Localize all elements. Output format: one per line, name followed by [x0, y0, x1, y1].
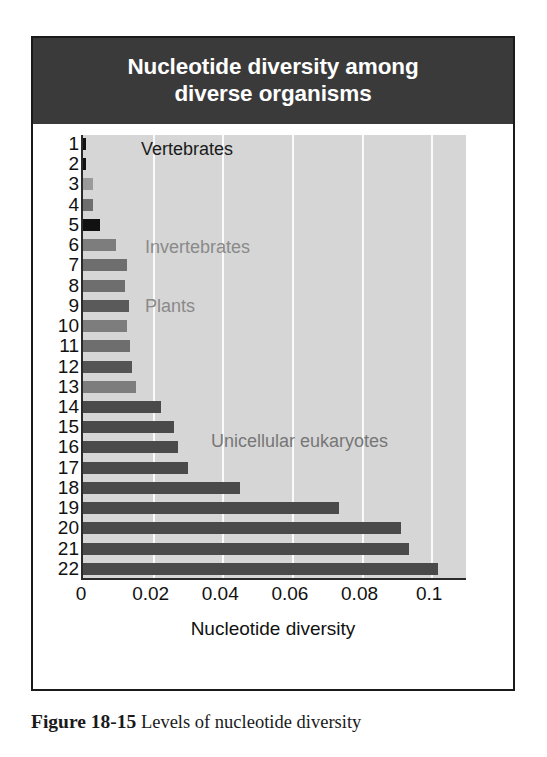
x-axis-tick-label: 0.04 — [202, 584, 239, 603]
chart-title-banner: Nucleotide diversity among diverse organ… — [33, 38, 513, 124]
x-axis-ticks: 00.020.040.060.080.1 — [81, 584, 466, 610]
y-axis-tick-label: 9 — [68, 296, 79, 315]
bar — [83, 158, 86, 170]
plot-region: 12345678910111213141516171819202122 Vert… — [33, 124, 513, 689]
y-axis-tick-label: 4 — [68, 195, 79, 214]
y-axis-tick-label: 16 — [58, 437, 79, 456]
bar — [83, 441, 178, 453]
bar — [83, 239, 116, 251]
group-annotation: Invertebrates — [145, 238, 250, 256]
plot-area: VertebratesInvertebratesPlantsUnicellula… — [81, 135, 466, 580]
y-axis-tick-label: 6 — [68, 235, 79, 254]
bar — [83, 361, 132, 373]
x-axis-tick-label: 0.1 — [416, 584, 442, 603]
figure-number: Figure 18-15 — [31, 711, 136, 732]
gridline — [362, 135, 364, 578]
figure-caption: Figure 18-15 Levels of nucleotide divers… — [31, 710, 531, 734]
y-axis-tick-label: 7 — [68, 255, 79, 274]
bar — [83, 300, 129, 312]
y-axis-tick-label: 20 — [58, 518, 79, 537]
y-axis-tick-label: 15 — [58, 417, 79, 436]
y-axis-tick-label: 18 — [58, 478, 79, 497]
bar — [83, 219, 100, 231]
y-axis-tick-label: 3 — [68, 174, 79, 193]
figure-caption-text: Levels of nucleotide diversity — [136, 712, 361, 732]
x-axis-tick-label: 0.02 — [132, 584, 169, 603]
bar — [83, 401, 161, 413]
y-axis-tick-label: 5 — [68, 215, 79, 234]
bar — [83, 462, 188, 474]
group-annotation: Vertebrates — [141, 140, 233, 158]
bar — [83, 320, 127, 332]
bar — [83, 563, 438, 575]
x-axis-tick-label: 0 — [76, 584, 87, 603]
y-axis-tick-label: 8 — [68, 276, 79, 295]
bar — [83, 502, 339, 514]
bar — [83, 178, 93, 190]
bar — [83, 543, 409, 555]
bar — [83, 522, 401, 534]
bar — [83, 138, 86, 150]
y-axis-tick-label: 19 — [58, 498, 79, 517]
y-axis-tick-label: 22 — [58, 559, 79, 578]
bar — [83, 340, 130, 352]
bar — [83, 381, 136, 393]
y-axis-tick-label: 1 — [68, 134, 79, 153]
bar — [83, 280, 125, 292]
y-axis-tick-label: 17 — [58, 458, 79, 477]
gridline — [431, 135, 433, 578]
bar — [83, 259, 127, 271]
y-axis-tick-label: 14 — [58, 397, 79, 416]
bar — [83, 482, 240, 494]
group-annotation: Unicellular eukaryotes — [211, 432, 388, 450]
group-annotation: Plants — [145, 297, 195, 315]
bar — [83, 199, 93, 211]
y-axis-tick-label: 13 — [58, 377, 79, 396]
x-axis-tick-label: 0.06 — [271, 584, 308, 603]
y-axis-tick-label: 11 — [59, 336, 79, 355]
y-axis-tick-label: 10 — [58, 316, 79, 335]
y-axis-tick-label: 12 — [58, 357, 79, 376]
y-axis-labels: 12345678910111213141516171819202122 — [39, 135, 79, 580]
figure-frame: Nucleotide diversity among diverse organ… — [31, 36, 515, 691]
bar — [83, 421, 174, 433]
chart-title: Nucleotide diversity among diverse organ… — [107, 54, 438, 107]
y-axis-tick-label: 21 — [58, 539, 79, 558]
x-axis-tick-label: 0.08 — [341, 584, 378, 603]
y-axis-tick-label: 2 — [68, 154, 79, 173]
x-axis-title: Nucleotide diversity — [33, 618, 513, 640]
